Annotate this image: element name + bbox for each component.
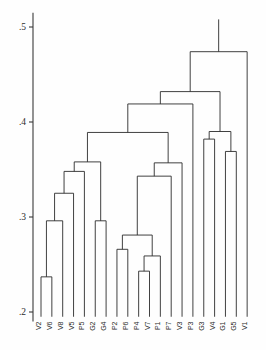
dendrogram-link bbox=[117, 249, 128, 316]
dendrogram-figure: .5.4.3.2 V2V6V8V5P5G2G4P2P6P4V7P1P7V3P3G… bbox=[0, 0, 266, 350]
leaf-label: G3 bbox=[198, 321, 205, 330]
leaf-label: V6 bbox=[46, 321, 53, 329]
leaf-label: G5 bbox=[230, 321, 237, 330]
leaf-labels: V2V6V8V5P5G2G4P2P6P4V7P1P7V3P3G3V4G1G5V1 bbox=[35, 321, 248, 330]
leaf-label: P1 bbox=[154, 321, 161, 329]
leaf-label: G1 bbox=[219, 321, 226, 330]
dendrogram-link bbox=[74, 162, 100, 221]
dendrogram-links bbox=[41, 19, 247, 316]
leaf-label: V8 bbox=[57, 321, 64, 329]
dendrogram-link bbox=[225, 151, 236, 316]
dendrogram-plot: .5.4.3.2 V2V6V8V5P5G2G4P2P6P4V7P1P7V3P3G… bbox=[0, 0, 266, 350]
axis-tick-label: .3 bbox=[19, 212, 26, 222]
dendrogram-link bbox=[87, 132, 168, 162]
dendrogram-link bbox=[204, 139, 215, 317]
leaf-label: P5 bbox=[78, 321, 85, 329]
dendrogram-link bbox=[122, 235, 152, 256]
leaf-label: G4 bbox=[100, 321, 107, 330]
leaf-label: P3 bbox=[187, 321, 194, 329]
dendrogram-link bbox=[154, 163, 182, 317]
dendrogram-link bbox=[46, 221, 62, 317]
leaf-label: V1 bbox=[241, 321, 248, 329]
leaf-label: V5 bbox=[68, 321, 75, 329]
leaf-label: G2 bbox=[89, 321, 96, 330]
dendrogram-link bbox=[160, 92, 220, 132]
axis-tick-label: .5 bbox=[19, 22, 26, 32]
leaf-label: P2 bbox=[111, 321, 118, 329]
leaf-label: P4 bbox=[133, 321, 140, 329]
axis-tick-label: .4 bbox=[19, 117, 26, 127]
dendrogram-link bbox=[41, 277, 52, 317]
dendrogram-link bbox=[209, 132, 231, 152]
dendrogram-link bbox=[137, 176, 171, 317]
axis-tick-label: .2 bbox=[19, 307, 26, 317]
dendrogram-link bbox=[55, 193, 74, 317]
leaf-label: V3 bbox=[176, 321, 183, 329]
leaf-label: V4 bbox=[209, 321, 216, 329]
axis-group: .5.4.3.2 bbox=[19, 13, 33, 322]
dendrogram-link bbox=[144, 256, 160, 317]
leaf-label: P7 bbox=[165, 321, 172, 329]
leaf-label: P6 bbox=[122, 321, 129, 329]
dendrogram-link bbox=[139, 271, 150, 317]
dendrogram-link bbox=[95, 221, 106, 317]
leaf-label: V2 bbox=[35, 321, 42, 329]
leaf-label: V7 bbox=[144, 321, 151, 329]
